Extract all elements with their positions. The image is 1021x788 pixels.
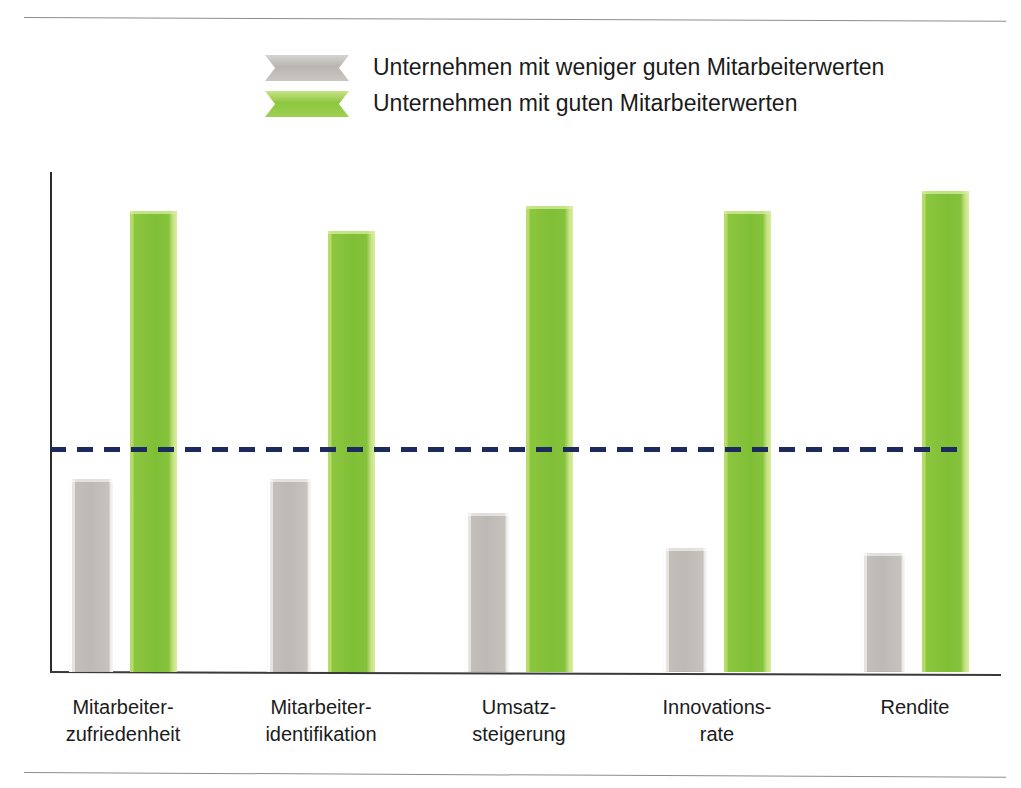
bar-gray-1 — [69, 479, 113, 672]
bar-gray-4 — [663, 548, 707, 672]
x-axis-label-1: Mitarbeiter-zufriedenheit — [23, 694, 223, 748]
x-axis-label-line: Innovations- — [617, 694, 817, 721]
x-axis-label-4: Innovations-rate — [617, 694, 817, 748]
bar-gray-2 — [267, 479, 311, 672]
bar-green-1 — [130, 211, 177, 672]
y-axis-line — [50, 172, 52, 673]
x-axis-label-2: Mitarbeiter-identifikation — [221, 694, 421, 748]
x-axis-label-line: steigerung — [419, 721, 619, 748]
x-axis-label-5: Rendite — [815, 694, 1015, 721]
x-axis-label-line: identifikation — [221, 721, 421, 748]
bar-green-4 — [724, 211, 771, 672]
reference-dashed-line — [50, 447, 965, 452]
bar-green-3 — [526, 206, 573, 672]
x-axis-label-line: Mitarbeiter- — [221, 694, 421, 721]
x-axis-label-line: Mitarbeiter- — [23, 694, 223, 721]
bar-gray-5 — [861, 553, 905, 672]
x-axis-label-line: Umsatz- — [419, 694, 619, 721]
x-axis-label-line: Rendite — [815, 694, 1015, 721]
chart-page: Unternehmen mit weniger guten Mitarbeite… — [0, 0, 1021, 788]
x-axis-label-3: Umsatz-steigerung — [419, 694, 619, 748]
x-axis-label-line: zufriedenheit — [23, 721, 223, 748]
plot-area: Mitarbeiter-zufriedenheitMitarbeiter-ide… — [0, 0, 1021, 788]
bar-green-5 — [922, 191, 969, 672]
x-axis-label-line: rate — [617, 721, 817, 748]
bar-gray-3 — [465, 513, 509, 672]
